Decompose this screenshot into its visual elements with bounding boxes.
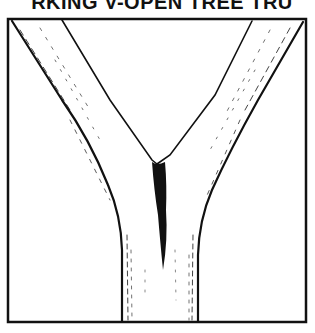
tree-illustration xyxy=(0,0,315,333)
bark-seam xyxy=(152,162,167,270)
